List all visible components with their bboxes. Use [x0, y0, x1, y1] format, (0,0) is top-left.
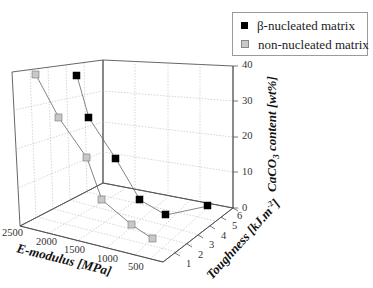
- series-non-nucleated-markers: [32, 71, 156, 242]
- z-tick-20: 20: [242, 130, 253, 141]
- legend: β-nucleated matrix non-nucleated matrix: [232, 12, 368, 56]
- y-tick-2: 2: [198, 249, 203, 260]
- z-tick-10: 10: [242, 166, 253, 177]
- black-square-icon: [241, 22, 248, 29]
- z-tick-0: 0: [242, 202, 247, 213]
- z-axis: [233, 66, 238, 208]
- y-tick-1: 1: [186, 258, 191, 269]
- x-tick-2500: 2500: [2, 227, 23, 238]
- y-tick-5: 5: [232, 220, 237, 231]
- series-non-nucleated-line: [36, 75, 153, 239]
- y-tick-6: 6: [237, 210, 242, 221]
- legend-item-beta-nucleated: β-nucleated matrix: [241, 18, 355, 34]
- y-tick-4: 4: [221, 230, 227, 241]
- grid-left-wall: [14, 63, 103, 217]
- y-tick-3: 3: [209, 239, 214, 250]
- z-axis-label: CaCO3 content [wt%]: [264, 76, 281, 192]
- z-tick-30: 30: [242, 95, 253, 106]
- x-tick-500: 500: [128, 261, 144, 272]
- legend-label: β-nucleated matrix: [257, 18, 355, 33]
- grey-square-icon: [241, 40, 249, 48]
- legend-item-non-nucleated: non-nucleated matrix: [241, 37, 369, 53]
- legend-label: non-nucleated matrix: [258, 37, 369, 52]
- back-left-wall: [12, 60, 103, 226]
- z-tick-40: 40: [242, 59, 253, 70]
- grid-right-wall: [103, 61, 233, 201]
